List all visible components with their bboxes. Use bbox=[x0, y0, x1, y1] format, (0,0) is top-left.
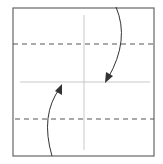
origami-diagram bbox=[0, 0, 163, 164]
